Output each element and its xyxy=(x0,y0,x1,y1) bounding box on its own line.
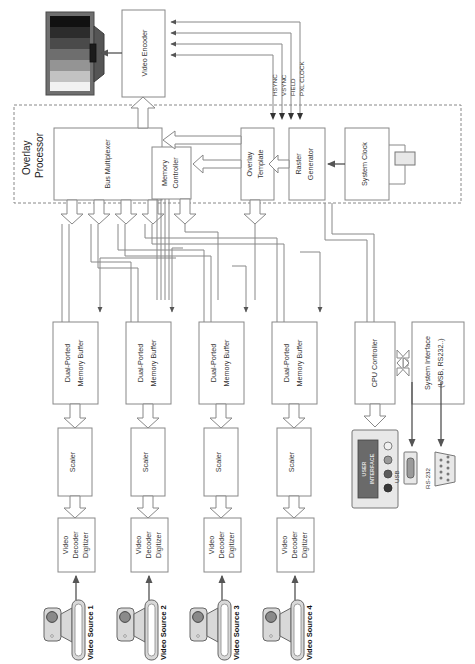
label-scaler-1: Scaler xyxy=(68,451,77,472)
label-decoder-4-line2: Decoder xyxy=(290,531,299,559)
label-system-interface-line1: System Interface xyxy=(423,336,432,390)
memctrl-feed-arrows xyxy=(100,248,320,312)
sync-signal-wires xyxy=(171,22,300,113)
channel-1: Scaler Video Decoder Digitizer Video Sou… xyxy=(44,404,95,660)
monitor-grayscale-bars xyxy=(50,16,90,91)
label-decoder-1-line1: Video xyxy=(61,536,70,554)
label-decoder-1-line3: Digitizer xyxy=(81,531,90,558)
bus-arrow-scaler1-to-dpmb1 xyxy=(64,404,86,428)
camera-icon-4 xyxy=(263,600,304,660)
label-overlay-template-line1: Overlay xyxy=(245,151,254,176)
diagram-canvas: Video Encoder HSYNC VSYNC FIELD PXL CLOC… xyxy=(0,0,475,664)
label-signal-field: FIELD xyxy=(289,78,296,96)
label-decoder-2-line3: Digitizer xyxy=(154,531,163,558)
label-user-interface-line2: INTERFACE xyxy=(369,453,375,484)
label-dpmb-2-line1: Dual-Ported xyxy=(136,344,145,382)
bus-arrow-template-bottom xyxy=(244,200,266,224)
label-decoder-2-line2: Decoder xyxy=(144,531,153,559)
label-video-source-3: Video Source 3 xyxy=(232,605,241,660)
label-signal-hsync: HSYNC xyxy=(271,74,278,96)
bus-routing-network xyxy=(62,224,284,322)
block-diagram-svg: Video Encoder HSYNC VSYNC FIELD PXL CLOC… xyxy=(0,0,475,664)
rs232-connector-icon xyxy=(435,452,455,486)
channel-3: Scaler Video Decoder Digitizer Video Sou… xyxy=(190,404,241,660)
ui-button-2[interactable] xyxy=(384,456,392,464)
label-user-interface-line1: USER xyxy=(361,461,367,476)
label-scaler-2: Scaler xyxy=(141,451,150,472)
label-rs232: RS-232 xyxy=(424,467,431,489)
channel-2: Scaler Video Decoder Digitizer Video Sou… xyxy=(117,404,168,660)
label-video-source-2: Video Source 2 xyxy=(159,605,168,660)
label-signal-pxl-clock: PXL CLOCK xyxy=(298,61,305,96)
label-system-clock: System Clock xyxy=(360,142,369,186)
monitor-screen-edge xyxy=(90,44,96,62)
label-scaler-3: Scaler xyxy=(214,451,223,472)
display-monitor xyxy=(46,12,104,95)
label-overlay-processor-line1: Overlay xyxy=(21,141,32,175)
label-dpmb-3-line1: Dual-Ported xyxy=(209,344,218,382)
memory-buffer-column-3: Dual-Ported Memory Buffer xyxy=(199,322,244,404)
label-video-encoder: Video Encoder xyxy=(140,29,149,77)
bus-arrow-decoder4-to-scaler4 xyxy=(283,496,305,518)
label-cpu-controller: CPU Controller xyxy=(370,338,379,387)
label-decoder-1-line2: Decoder xyxy=(71,531,80,559)
bus-arrow-scaler3-to-dpmb3 xyxy=(210,404,232,428)
label-memory-controller-line1: Memory xyxy=(160,160,169,186)
label-decoder-3-line2: Decoder xyxy=(217,531,226,559)
user-interface-panel[interactable]: USER INTERFACE xyxy=(352,430,398,508)
label-decoder-3-line3: Digitizer xyxy=(227,531,236,558)
label-video-source-1: Video Source 1 xyxy=(86,604,95,660)
label-decoder-4-line1: Video xyxy=(280,536,289,554)
bus-arrow-decoder3-to-scaler3 xyxy=(210,496,232,518)
bus-arrow-decoder1-to-scaler1 xyxy=(64,496,86,518)
bus-arrow-template-to-busmux xyxy=(163,131,241,149)
label-raster-generator-line1: Raster xyxy=(294,153,303,175)
bus-arrow-scaler2-to-dpmb2 xyxy=(137,404,159,428)
label-dpmb-3-line2: Memory Buffer xyxy=(222,339,231,387)
label-overlay-template-line2: Template xyxy=(256,149,265,178)
label-video-source-4: Video Source 4 xyxy=(305,604,314,660)
label-decoder-2-line1: Video xyxy=(134,536,143,554)
label-raster-generator-line2: Generator xyxy=(306,147,315,180)
label-dpmb-1-line2: Memory Buffer xyxy=(76,339,85,387)
label-scaler-4: Scaler xyxy=(287,451,296,472)
memory-buffer-column-4: Dual-Ported Memory Buffer xyxy=(272,322,317,404)
label-dpmb-4-line2: Memory Buffer xyxy=(295,339,304,387)
sync-arrowheads xyxy=(270,113,303,120)
label-decoder-3-line1: Video xyxy=(207,536,216,554)
crystal-oscillator-icon xyxy=(389,145,415,184)
label-memory-controller-line2: Controller xyxy=(171,157,180,189)
bus-arrow-scaler4-to-dpmb4 xyxy=(283,404,305,428)
camera-icon-3 xyxy=(190,600,231,660)
label-system-interface-line2: (USB, RS232..) xyxy=(436,338,445,388)
label-bus-multiplexer: Bus Multiplexer xyxy=(103,139,112,189)
bus-arrow-cpu-to-ui xyxy=(364,404,386,427)
label-usb: USB xyxy=(393,470,400,483)
label-dpmb-4-line1: Dual-Ported xyxy=(282,344,291,382)
bus-arrow-template-to-memctrl xyxy=(193,155,241,173)
label-dpmb-2-line2: Memory Buffer xyxy=(149,339,158,387)
label-decoder-4-line3: Digitizer xyxy=(300,531,309,558)
ui-button-1[interactable] xyxy=(384,442,392,450)
usb-connector-icon xyxy=(404,452,417,484)
cpu-routing xyxy=(325,203,374,322)
bus-arrow-mux-to-encoder xyxy=(131,97,155,128)
ui-button-3[interactable] xyxy=(384,470,392,478)
label-overlay-processor-line2: Processor xyxy=(34,132,45,178)
label-signal-vsync: VSYNC xyxy=(280,74,287,96)
memory-buffer-column-2: Dual-Ported Memory Buffer xyxy=(126,322,171,404)
camera-icon-1 xyxy=(44,600,85,660)
bus-arrow-decoder2-to-scaler2 xyxy=(137,496,159,518)
bus-arrow-memctrl-bottom xyxy=(174,199,196,224)
memory-buffer-column-1: Dual-Ported Memory Buffer xyxy=(53,322,98,404)
channel-4: Scaler Video Decoder Digitizer Video Sou… xyxy=(263,404,314,660)
label-dpmb-1-line1: Dual-Ported xyxy=(63,344,72,382)
camera-icon-2 xyxy=(117,600,158,660)
ui-button-4[interactable] xyxy=(384,484,392,492)
bus-arrows-busmux-bottom xyxy=(61,200,164,224)
